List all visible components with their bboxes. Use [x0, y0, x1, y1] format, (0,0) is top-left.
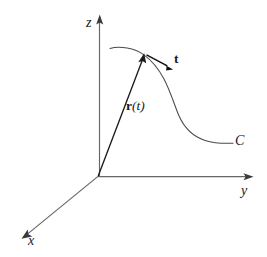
x-axis-line	[28, 176, 98, 233]
vector-calculus-diagram: z y x C r(t) t	[0, 0, 267, 257]
y-axis	[98, 173, 254, 180]
tangent-vector-t	[147, 55, 173, 70]
axis-label-x: x	[28, 234, 34, 248]
position-vector-argument: (t)	[132, 98, 145, 113]
curve-label-C: C	[235, 134, 244, 148]
tangent-vector-label: t	[174, 52, 179, 66]
axis-label-z: z	[86, 16, 91, 30]
position-vector-label: r(t)	[126, 99, 145, 113]
axis-label-y: y	[241, 184, 247, 198]
position-vector-r	[98, 53, 146, 175]
tangent-vector-arrowhead	[164, 64, 174, 70]
x-axis	[22, 176, 99, 238]
position-vector-shaft	[98, 61, 142, 176]
z-axis	[96, 15, 103, 177]
diagram-canvas	[0, 0, 267, 257]
